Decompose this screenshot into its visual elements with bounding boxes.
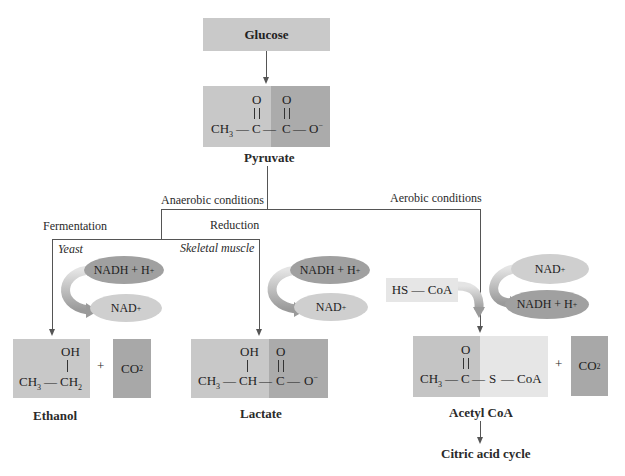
single-bond: —	[223, 373, 236, 389]
nadh-oval-aerobic: NADH + H+	[505, 290, 589, 319]
acetylcoa-s: S	[489, 371, 496, 387]
ethanol-oh: OH	[61, 344, 80, 360]
lactate-ch3: CH3	[198, 373, 220, 391]
lactate-c: C	[276, 373, 285, 389]
lactate-o-minus: O−	[304, 373, 318, 389]
ethanol-ch3: CH3	[19, 374, 41, 392]
lactate-o: O	[276, 344, 285, 360]
acetylcoa-right-region	[480, 336, 548, 397]
lactate-oh: OH	[240, 344, 259, 360]
acetylcoa-c: C	[461, 371, 470, 387]
single-bond: —	[259, 373, 272, 389]
acetylcoa-ch3: CH3	[420, 371, 442, 389]
nad-oval-aerobic: NAD+	[511, 254, 589, 284]
nadh-oval-muscle: NADH + H+	[290, 256, 370, 284]
acetylcoa-coa: CoA	[517, 371, 542, 387]
lactate-label: Lactate	[240, 406, 282, 422]
acetylcoa-box: O CH3 — C — S — CoA	[413, 336, 548, 397]
single-bond: —	[445, 371, 458, 387]
ethanol-ch2: CH2	[60, 374, 82, 392]
acetylcoa-o: O	[461, 342, 470, 358]
acetylcoa-label: Acetyl CoA	[449, 405, 513, 421]
double-bond	[463, 358, 469, 369]
single-bond: —	[472, 371, 485, 387]
hscoa-box: HS — CoA	[386, 278, 458, 302]
lactate-ch: CH	[239, 373, 257, 389]
nad-oval-muscle: NAD+	[294, 293, 368, 321]
nadh-oval-yeast: NADH + H+	[84, 256, 164, 284]
nad-oval-yeast: NAD+	[90, 294, 162, 322]
plus-sign: +	[97, 358, 104, 374]
double-bond	[278, 360, 284, 372]
arrow-to-citric	[477, 437, 483, 444]
single-bond: —	[44, 374, 57, 390]
single-bond	[67, 360, 68, 372]
single-bond: —	[501, 371, 514, 387]
acetylcoa-to-citric-line	[480, 421, 481, 438]
single-bond	[247, 360, 248, 372]
co2-box-aerobic: CO2	[571, 336, 608, 396]
citric-acid-cycle-label: Citric acid cycle	[441, 446, 531, 462]
single-bond: —	[287, 373, 300, 389]
curved-arrow-icon	[0, 0, 625, 476]
plus-sign: +	[555, 356, 562, 372]
lactate-box: OH O CH3 — CH — C — O−	[191, 339, 328, 398]
ethanol-box: OH CH3 — CH2	[13, 339, 90, 398]
co2-box-ethanol: CO2	[113, 339, 151, 398]
ethanol-label: Ethanol	[33, 408, 77, 424]
